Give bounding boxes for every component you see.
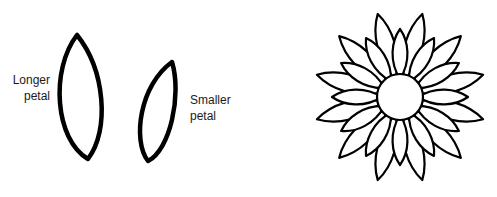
longer-petal-label-line1: Longer [13, 72, 50, 88]
smaller-petal-label-line1: Smaller [190, 92, 231, 108]
smaller-petal-shape [140, 62, 176, 161]
longer-petal-label: Longer petal [13, 72, 50, 104]
petal-diagram [0, 0, 497, 197]
longer-petal-label-line2: petal [13, 88, 50, 104]
longer-petal-shape [60, 35, 102, 159]
flower-drawing [315, 12, 486, 183]
smaller-petal-label: Smaller petal [190, 92, 231, 124]
smaller-petal-label-line2: petal [190, 108, 231, 124]
flower-center [377, 74, 423, 120]
